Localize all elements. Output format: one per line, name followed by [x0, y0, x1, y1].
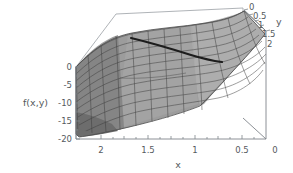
x-tick-label: 0.5	[235, 146, 249, 155]
surface-plot-figure: 2 1.5 1 0.5 0 x 0 -5 -10 -15 -20 f(x,y) …	[0, 0, 293, 173]
y-tick-label: 1.5	[262, 30, 276, 39]
y-axis-label: y	[276, 17, 282, 27]
z-axis-label: f(x,y)	[23, 98, 48, 108]
z-tick-label: -20	[58, 135, 72, 144]
z-tick-label: -10	[58, 99, 72, 108]
z-tick-label: -15	[58, 117, 72, 126]
z-tick-label: 0	[67, 63, 72, 72]
x-tick-label: 2	[98, 146, 103, 155]
x-axis-label: x	[175, 160, 181, 170]
z-tick-label: -5	[64, 81, 72, 90]
x-axis-ticks	[101, 135, 254, 139]
x-tick-label: 0	[272, 146, 277, 155]
y-tick-label: 2	[267, 40, 272, 49]
x-tick-label: 1.5	[141, 146, 155, 155]
x-tick-label: 1	[192, 146, 197, 155]
